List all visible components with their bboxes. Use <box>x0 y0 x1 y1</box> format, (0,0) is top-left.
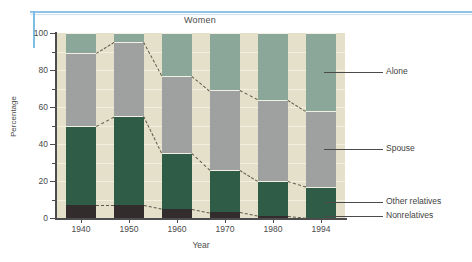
y-tick-label: 20 <box>20 176 48 186</box>
x-axis-title: Year <box>57 240 345 250</box>
y-tick-minor <box>52 163 55 164</box>
bar-segment-other-relatives <box>162 153 192 209</box>
y-tick-minor <box>52 89 55 90</box>
y-tick-label: 60 <box>20 102 48 112</box>
bar-segment-other-relatives <box>114 116 144 205</box>
y-tick-major <box>50 218 55 219</box>
y-axis-title: Percentage <box>9 82 18 152</box>
bar-1940 <box>66 33 96 218</box>
page-rule-horizontal <box>30 11 472 13</box>
y-tick-major <box>50 33 55 34</box>
bar-segment-nonrelatives <box>66 205 96 218</box>
gridline <box>57 144 345 145</box>
y-tick-minor <box>52 52 55 53</box>
x-tick <box>225 219 226 223</box>
x-tick-label: 1994 <box>298 224 344 234</box>
gridline <box>57 89 345 90</box>
x-tick-label: 1950 <box>106 224 152 234</box>
plot-area <box>57 33 345 218</box>
legend-label-spouse: Spouse <box>386 143 415 153</box>
bar-segment-alone <box>210 33 240 90</box>
x-tick-label: 1980 <box>250 224 296 234</box>
bar-segment-other-relatives <box>210 170 240 213</box>
bar-segment-spouse <box>258 100 288 181</box>
bar-1980 <box>258 33 288 218</box>
y-tick-label: 80 <box>20 65 48 75</box>
y-tick-label: 100 <box>20 28 48 38</box>
chart-title: Women <box>0 15 400 25</box>
legend-leader-line <box>324 202 383 203</box>
bar-1950 <box>114 33 144 218</box>
y-tick-minor <box>52 200 55 201</box>
y-tick-label: 0 <box>20 213 48 223</box>
legend-label-alone: Alone <box>386 66 408 76</box>
bar-1960 <box>162 33 192 218</box>
bar-segment-alone <box>162 33 192 76</box>
gridline <box>57 70 345 71</box>
bar-segment-spouse <box>162 76 192 154</box>
x-tick <box>81 219 82 223</box>
x-tick <box>177 219 178 223</box>
x-tick-label: 1940 <box>58 224 104 234</box>
x-tick <box>129 219 130 223</box>
y-tick-minor <box>52 126 55 127</box>
bar-segment-other-relatives <box>66 126 96 206</box>
legend-label-other-relatives: Other relatives <box>386 196 441 206</box>
legend-label-nonrelatives: Nonrelatives <box>386 210 433 220</box>
x-tick <box>273 219 274 223</box>
bar-segment-nonrelatives <box>210 212 240 218</box>
bar-segment-alone <box>258 33 288 100</box>
y-tick-major <box>50 107 55 108</box>
y-tick-label: 40 <box>20 139 48 149</box>
gridline <box>57 52 345 53</box>
bar-segment-nonrelatives <box>162 209 192 218</box>
gridline <box>57 200 345 201</box>
y-tick-major <box>50 144 55 145</box>
bar-segment-alone <box>66 33 96 53</box>
y-axis-tick-labels: 100806040200 <box>16 0 48 262</box>
bar-1970 <box>210 33 240 218</box>
bar-segment-spouse <box>210 90 240 170</box>
bar-segment-nonrelatives <box>258 216 288 218</box>
bar-segment-spouse <box>66 53 96 125</box>
bar-segment-alone <box>114 33 144 42</box>
x-tick-label: 1970 <box>202 224 248 234</box>
legend-leader-line <box>324 216 383 217</box>
bar-segment-nonrelatives <box>114 205 144 218</box>
connector-line <box>96 205 114 206</box>
chart-page: Women 100806040200 Percentage Year 19401… <box>0 0 472 262</box>
bar-segment-other-relatives <box>258 181 288 216</box>
x-tick-label: 1960 <box>154 224 200 234</box>
gridline <box>57 126 345 127</box>
legend-leader-line <box>324 72 383 73</box>
legend-leader-line <box>324 149 383 150</box>
x-tick <box>321 219 322 223</box>
gridline <box>57 181 345 182</box>
bar-segment-spouse <box>114 42 144 116</box>
y-tick-major <box>50 70 55 71</box>
bar-1994 <box>306 33 336 218</box>
y-tick-major <box>50 181 55 182</box>
